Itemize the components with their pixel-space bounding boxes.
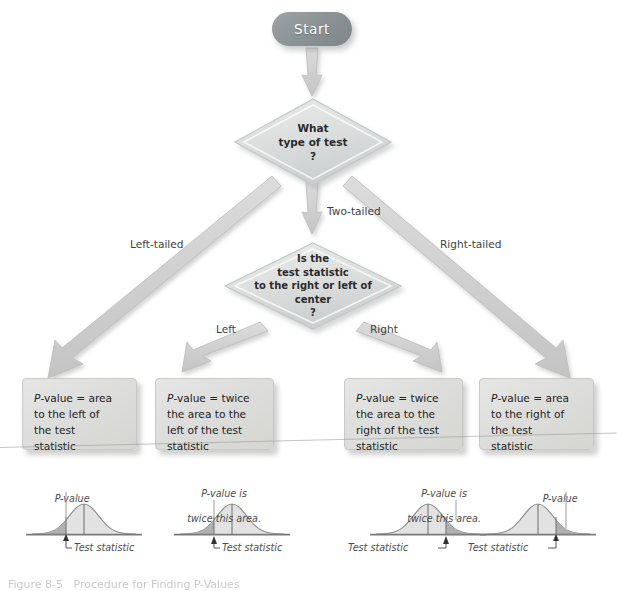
outcome0-line2: to the left of (34, 408, 100, 420)
curve1-note-line1: P-value is (201, 488, 247, 499)
outcome0-line1: -value = area (40, 392, 112, 404)
curve2-note-line1: P-value is (421, 488, 467, 499)
outcome-box-right-tailed-text: P-value = area to the right of the test … (491, 390, 584, 454)
start-terminator: Start (272, 12, 352, 46)
outcome0-line3: the test (34, 424, 75, 436)
curve-two-tailed-right-statistic-label: Test statistic (348, 542, 408, 553)
figure-caption: Figure 8-5 Procedure for Finding P-Value… (8, 578, 240, 591)
edge-label-left: Left (216, 323, 236, 335)
outcome2-line4: statistic (356, 440, 398, 452)
arrow-two-tailed (302, 182, 322, 234)
arrow-start-to-decision1 (302, 48, 322, 96)
edge-label-two-tailed: Two-tailed (327, 205, 381, 217)
decision-statistic-side: Is the test statistic to the right or le… (222, 240, 404, 332)
curve-right-tailed-statistic-label: Test statistic (468, 542, 528, 553)
outcome2-line3: right of the test (356, 424, 439, 436)
edge-label-right: Right (370, 323, 398, 335)
outcome1-line2: the area to the (167, 408, 246, 420)
outcome3-line4: statistic (491, 440, 533, 452)
edge-label-left-tailed: Left-tailed (130, 238, 184, 250)
outcome-box-two-tailed-left: P-value = twice the area to the left of … (155, 378, 274, 450)
figure-canvas: Start What type of test ? (0, 0, 617, 591)
decision-type-of-test: What type of test ? (232, 96, 394, 188)
outcome-box-left-tailed: P-value = area to the left of the test s… (22, 378, 137, 450)
outcome-box-two-tailed-left-text: P-value = twice the area to the left of … (167, 390, 264, 454)
outcome3-line1: -value = area (497, 392, 569, 404)
outcome1-line3: left of the test (167, 424, 242, 436)
start-label: Start (294, 21, 330, 37)
outcome-box-right-tailed: P-value = area to the right of the test … (479, 378, 594, 450)
outcome1-line1: -value = twice (173, 392, 249, 404)
outcome2-line1: -value = twice (362, 392, 438, 404)
curve-two-tailed-left-statistic-label: Test statistic (222, 542, 282, 553)
outcome-box-two-tailed-right-text: P-value = twice the area to the right of… (356, 390, 453, 454)
outcome2-line2: the area to the (356, 408, 435, 420)
edge-label-right-tailed: Right-tailed (440, 238, 502, 250)
curve-left-tailed-statistic-label: Test statistic (74, 542, 134, 553)
outcome3-line2: to the right of (491, 408, 564, 420)
